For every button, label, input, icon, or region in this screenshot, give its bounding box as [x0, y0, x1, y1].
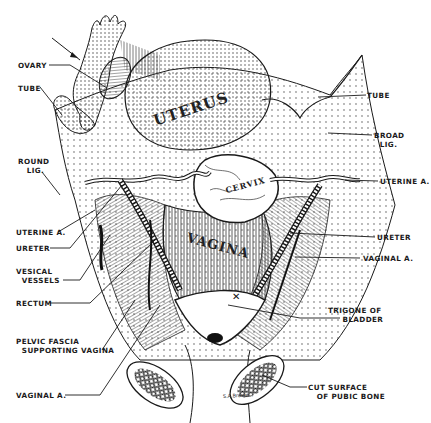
label-vesical-vessels: VESICAL VESSELS [16, 267, 60, 285]
illustration-drawing: ✕ S.A.Brown... [0, 0, 431, 423]
label-ureter-left: URETER [16, 244, 50, 253]
label-tube-right: TUBE [367, 91, 390, 100]
label-round-ligament: ROUND LIG. [18, 157, 49, 175]
label-broad-ligament: BROAD LIG. [374, 131, 404, 149]
anatomy-figure: ✕ S.A.Brown... UTERUS CERVIX VAGINA OVAR… [0, 0, 431, 423]
label-ovary: OVARY [18, 61, 47, 70]
label-cut-surface-pubic-bone: CUT SURFACE OF PUBIC BONE [308, 383, 385, 401]
label-vaginal-artery-left: VAGINAL A. [16, 391, 66, 400]
label-uterine-artery-left: UTERINE A. [16, 228, 66, 237]
label-tube-left: TUBE [18, 84, 41, 93]
label-ureter-right: URETER [377, 233, 411, 242]
label-rectum: RECTUM [16, 299, 52, 308]
label-uterine-artery-right: UTERINE A. [380, 177, 430, 186]
label-pelvic-fascia: PELVIC FASCIA SUPPORTING VAGINA [16, 337, 114, 355]
label-trigone: TRIGONE OF BLADDER [328, 306, 383, 324]
label-vaginal-artery-right: VAGINAL A. [363, 254, 413, 263]
svg-text:✕: ✕ [232, 291, 240, 302]
